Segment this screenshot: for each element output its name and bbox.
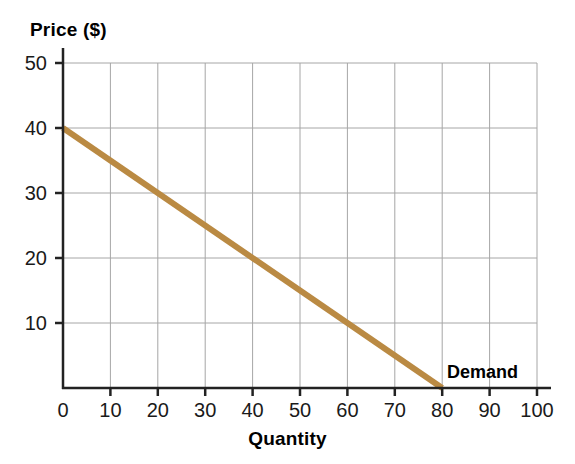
y-tick-label-50: 50 bbox=[0, 52, 47, 75]
vertical-gridlines bbox=[110, 63, 537, 388]
y-tick-label-20: 20 bbox=[0, 247, 47, 270]
y-tick-label-10: 10 bbox=[0, 312, 47, 335]
series-label-demand: Demand bbox=[447, 362, 518, 383]
x-tick-label-30: 30 bbox=[180, 399, 230, 422]
x-tick-label-90: 90 bbox=[465, 399, 515, 422]
x-tick-label-10: 10 bbox=[85, 399, 135, 422]
x-tick-label-70: 70 bbox=[370, 399, 420, 422]
x-tick-label-100: 100 bbox=[512, 399, 562, 422]
plot-area bbox=[0, 0, 575, 464]
y-tick-label-30: 30 bbox=[0, 182, 47, 205]
y-tick-label-40: 40 bbox=[0, 117, 47, 140]
x-tick-label-20: 20 bbox=[133, 399, 183, 422]
x-tick-label-60: 60 bbox=[322, 399, 372, 422]
x-tick-label-0: 0 bbox=[38, 399, 88, 422]
x-tick-label-40: 40 bbox=[228, 399, 278, 422]
demand-curve-chart: Price ($) bbox=[0, 0, 575, 464]
x-tick-label-80: 80 bbox=[417, 399, 467, 422]
x-axis-title: Quantity bbox=[0, 428, 575, 450]
x-tick-label-50: 50 bbox=[275, 399, 325, 422]
